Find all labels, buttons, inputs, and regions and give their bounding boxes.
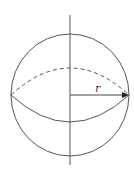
- radius-label: r: [95, 83, 100, 94]
- radius-arrowhead-icon: [122, 92, 129, 98]
- sphere-diagram: [0, 0, 134, 172]
